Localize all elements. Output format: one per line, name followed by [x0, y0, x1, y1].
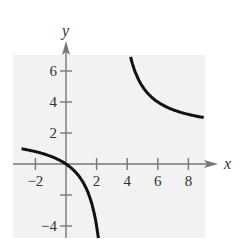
y-axis-label: y [60, 22, 70, 40]
y-tick-label: 4 [50, 94, 58, 110]
y-tick-label: 2 [50, 125, 58, 141]
y-tick-label: −4 [41, 218, 57, 234]
x-axis-label: x [223, 155, 231, 172]
x-tick-label: 6 [154, 173, 162, 189]
x-tick-label: −2 [27, 173, 43, 189]
plot-background [13, 55, 205, 238]
x-tick-label: 2 [93, 173, 101, 189]
x-tick-label: 8 [185, 173, 193, 189]
chart: −22468−4246 x y [0, 0, 246, 251]
x-tick-label: 4 [123, 173, 131, 189]
y-tick-label: 6 [50, 63, 58, 79]
